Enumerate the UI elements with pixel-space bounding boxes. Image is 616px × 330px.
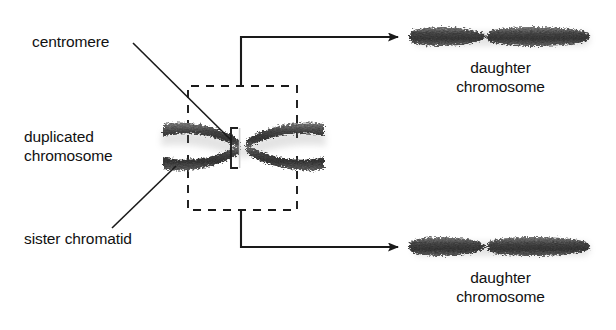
chromosome-diagram: centromere duplicated chromosome sister … — [0, 0, 616, 330]
label-daughter-chromosome-bottom-line2: chromosome — [428, 287, 573, 306]
connector-arrow-top — [241, 37, 398, 86]
daughter-chromosome-bottom — [409, 237, 590, 256]
label-sister-chromatid: sister chromatid — [24, 229, 132, 248]
label-daughter-chromosome-top-line1: daughter — [428, 58, 573, 77]
leader-line-sister-chromatid — [112, 166, 176, 228]
daughter-chromosome-top — [409, 27, 590, 46]
label-duplicated-chromosome-line1: duplicated — [24, 127, 94, 146]
label-centromere: centromere — [32, 32, 109, 51]
duplicated-chromosome-shadow — [161, 130, 326, 158]
label-duplicated-chromosome-line2: chromosome — [24, 146, 113, 165]
connector-arrow-bottom — [241, 210, 398, 247]
label-daughter-chromosome-bottom-line1: daughter — [428, 268, 573, 287]
label-daughter-chromosome-top-line2: chromosome — [428, 77, 573, 96]
